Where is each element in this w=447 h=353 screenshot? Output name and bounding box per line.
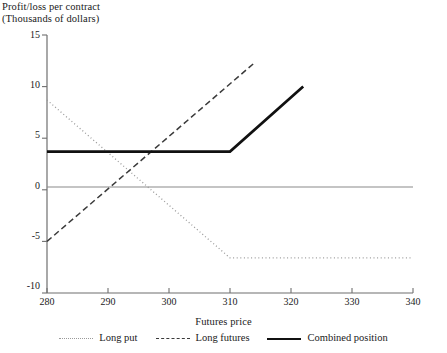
legend-label-long-put: Long put xyxy=(99,332,137,343)
data-series-group xyxy=(47,63,413,258)
y-tick-label-0: 0 xyxy=(14,181,40,191)
solid-line-swatch-icon xyxy=(267,334,301,342)
x-tick-marks xyxy=(47,288,413,293)
y-tick-label-5: 5 xyxy=(14,130,40,140)
y-tick-label-10: 10 xyxy=(14,80,40,90)
x-tick-label-280: 280 xyxy=(27,297,67,307)
legend-label-long-futures: Long futures xyxy=(196,332,250,343)
legend-item-long-futures: Long futures xyxy=(156,332,250,343)
x-tick-label-300: 300 xyxy=(149,297,189,307)
dotted-line-swatch-icon xyxy=(59,334,93,342)
x-tick-label-340: 340 xyxy=(393,297,433,307)
y-axis-title: Profit/loss per contract(Thousands of do… xyxy=(2,1,100,24)
y-axis-title-line-1: Profit/loss per contract xyxy=(2,1,100,12)
axes-group xyxy=(47,35,413,293)
y-tick-marks xyxy=(42,35,47,293)
y-tick-label-minus-5: -5 xyxy=(14,231,40,241)
series-line-combined-position xyxy=(47,87,303,152)
x-tick-label-320: 320 xyxy=(271,297,311,307)
legend-item-long-put: Long put xyxy=(59,332,137,343)
legend-label-combined-position: Combined position xyxy=(307,332,387,343)
chart-container: Profit/loss per contract(Thousands of do… xyxy=(0,0,447,353)
y-axis-title-line-2: (Thousands of dollars) xyxy=(2,13,99,24)
chart-legend: Long put Long futures Combined position xyxy=(0,332,447,343)
y-tick-label-15: 15 xyxy=(14,30,40,40)
x-tick-label-330: 330 xyxy=(332,297,372,307)
x-tick-label-290: 290 xyxy=(88,297,128,307)
x-axis-title: Futures price xyxy=(0,316,447,328)
dashed-line-swatch-icon xyxy=(156,334,190,342)
series-line-long-put xyxy=(47,100,413,258)
x-tick-label-310: 310 xyxy=(210,297,250,307)
y-tick-label-minus-10: -10 xyxy=(14,281,40,291)
legend-item-combined-position: Combined position xyxy=(267,332,387,343)
